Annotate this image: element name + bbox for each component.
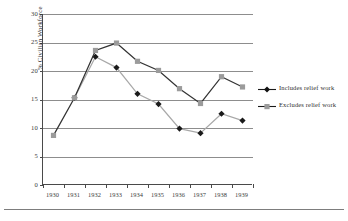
y-tick-label: 0 xyxy=(12,182,38,189)
data-point-square xyxy=(156,68,161,73)
legend-marker-diamond-icon xyxy=(258,86,276,93)
legend-item-includes-relief-work[interactable]: Includes relief work xyxy=(258,84,346,92)
plot-area: 051015202530 % Civilian Workforce xyxy=(42,14,252,185)
y-tick-label: 15 xyxy=(12,96,38,103)
chart-figure: 051015202530 % Civilian Workforce 193019… xyxy=(0,0,348,221)
data-point-square xyxy=(93,48,98,53)
x-tick-mark xyxy=(253,184,254,188)
data-point-square xyxy=(177,86,182,91)
y-tick-label: 20 xyxy=(12,68,38,75)
y-tick-label: 5 xyxy=(12,153,38,160)
data-point-square xyxy=(114,40,119,45)
series-line xyxy=(54,43,243,135)
data-point-square xyxy=(240,84,245,89)
y-tick-label: 10 xyxy=(12,125,38,132)
data-point-diamond xyxy=(239,117,245,123)
y-axis-title: % Civilian Workforce xyxy=(37,0,44,70)
legend-marker-square-icon xyxy=(258,103,276,110)
legend-label-excludes-relief-work: Excludes relief work xyxy=(279,101,336,108)
data-point-square xyxy=(219,74,224,79)
legend-label-includes-relief-work: Includes relief work xyxy=(279,84,334,91)
y-tick-label: 30 xyxy=(12,11,38,18)
chart-legend: Includes relief work Excludes relief wor… xyxy=(258,84,346,118)
y-tick-label: 25 xyxy=(12,39,38,46)
x-tick-label: 1939 xyxy=(229,192,255,198)
data-point-square xyxy=(198,101,203,106)
bottom-divider xyxy=(4,209,344,210)
data-point-square xyxy=(51,133,56,138)
data-point-square xyxy=(135,59,140,64)
legend-item-excludes-relief-work[interactable]: Excludes relief work xyxy=(258,101,346,109)
series-plot xyxy=(43,14,253,185)
data-point-square xyxy=(72,95,77,100)
